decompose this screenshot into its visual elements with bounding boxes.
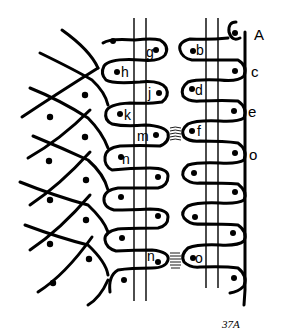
left-serpentine-dots (110, 38, 162, 283)
edge-label-o: o (249, 146, 257, 163)
right-serpentine-thread (180, 22, 245, 293)
left-lattice (20, 30, 108, 305)
edge-label-e: e (248, 103, 256, 120)
loop-label-n-upper: n (122, 151, 130, 167)
loop-label-m: m (137, 128, 149, 144)
edge-label-c: c (251, 63, 259, 80)
loop-label-o-lower: o (195, 250, 203, 266)
loop-label-b: b (196, 42, 204, 58)
loop-label-k: k (124, 107, 132, 123)
loop-label-j: j (147, 85, 151, 101)
loop-label-h: h (121, 64, 129, 80)
figure-caption: 37A (221, 318, 240, 330)
loop-label-g: g (146, 44, 154, 60)
edge-label-A: A (254, 26, 264, 43)
loop-label-f: f (197, 123, 201, 139)
binding-mark-lower (170, 253, 181, 268)
loop-label-n-lower: n (147, 248, 155, 264)
loop-label-d: d (195, 82, 203, 98)
left-serpentine-thread (102, 39, 168, 292)
edge-labels: A c e o (248, 26, 264, 163)
binding-mark-upper (170, 127, 181, 140)
loop-structure-diagram: g h j k m n n b d f o A c e o 37A (0, 0, 282, 334)
